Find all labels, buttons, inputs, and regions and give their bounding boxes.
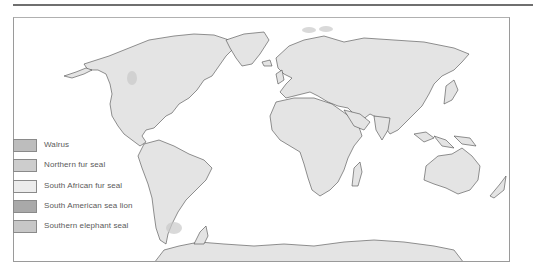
- legend-item-walrus: Walrus: [13, 139, 183, 153]
- legend-label: Walrus: [44, 140, 69, 149]
- madagascar: [352, 162, 362, 186]
- south-american-sea-lion-swatch: [13, 200, 37, 213]
- southern-elephant-seal-swatch: [13, 220, 37, 233]
- south-african-fur-seal-swatch: [13, 180, 37, 193]
- legend-label: Northern fur seal: [44, 160, 105, 169]
- legend-label: Southern elephant seal: [44, 221, 129, 230]
- legend-item-northern-fur-seal: Northern fur seal: [13, 159, 183, 173]
- legend-item-south-african-fur-seal: South African fur seal: [13, 180, 183, 194]
- new-zealand: [490, 176, 506, 198]
- australia: [424, 148, 480, 194]
- legend-item-southern-elephant-seal: Southern elephant seal: [13, 220, 183, 234]
- northern-fur-seal-swatch: [13, 159, 37, 172]
- north-america: [84, 34, 234, 146]
- legend-label: South American sea lion: [44, 201, 133, 210]
- legend-label: South African fur seal: [44, 181, 122, 190]
- legend-item-south-american-sea-lion: South American sea lion: [13, 200, 183, 214]
- walrus-swatch: [13, 139, 37, 152]
- greenland: [226, 32, 269, 66]
- top-rule: [13, 4, 533, 6]
